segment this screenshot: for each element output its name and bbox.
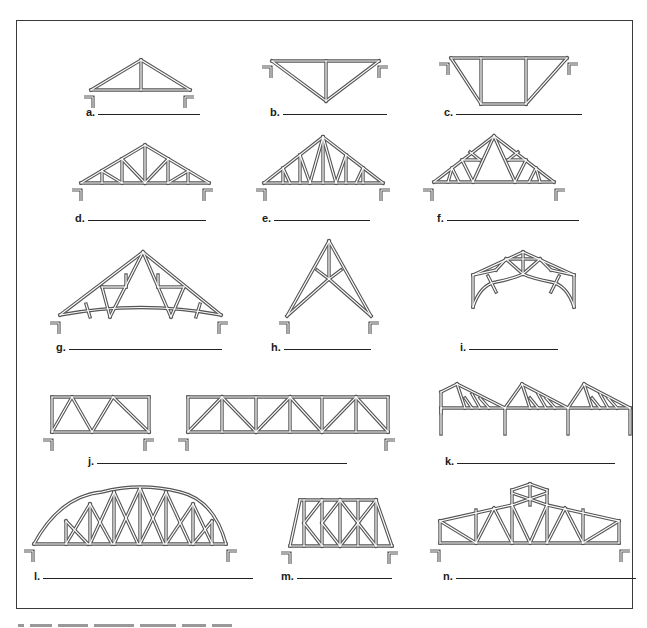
item-letter: m. — [281, 570, 294, 582]
item-letter: k. — [445, 455, 454, 467]
bearing-support-icon — [72, 190, 213, 201]
truss-figure-f — [423, 136, 565, 201]
answer-blank[interactable] — [283, 114, 387, 115]
answer-blank[interactable] — [297, 578, 392, 579]
answer-item-b: b. — [270, 106, 387, 118]
answer-item-c: c. — [444, 106, 582, 118]
bearing-support-icon — [43, 440, 154, 451]
item-letter: j. — [88, 455, 94, 467]
answer-blank[interactable] — [98, 114, 200, 115]
truss-figure-j2 — [178, 397, 395, 451]
answer-blank[interactable] — [274, 220, 370, 221]
bearing-support-icon — [430, 551, 630, 562]
answer-item-j: j. — [88, 455, 347, 467]
answer-item-i: i. — [460, 341, 558, 353]
answer-item-m: m. — [281, 570, 392, 582]
answer-item-l: l. — [34, 570, 253, 582]
answer-blank[interactable] — [97, 463, 347, 464]
truss-figure-a — [84, 60, 194, 108]
answer-blank[interactable] — [88, 220, 206, 221]
answer-blank[interactable] — [457, 463, 615, 464]
answer-blank[interactable] — [69, 349, 222, 350]
truss-figure-i — [473, 252, 574, 307]
answer-item-n: n. — [443, 570, 636, 582]
item-letter: e. — [262, 212, 271, 224]
truss-figure-l — [24, 487, 237, 562]
answer-item-f: f. — [437, 212, 579, 224]
item-letter: b. — [270, 106, 280, 118]
bearing-support-icon — [24, 551, 237, 562]
truss-figure-k — [441, 384, 630, 434]
truss-figure-b — [262, 61, 388, 101]
item-letter: i. — [460, 341, 466, 353]
bearing-support-icon — [279, 323, 379, 334]
bearing-support-icon — [423, 190, 565, 201]
item-letter: h. — [271, 341, 281, 353]
truss-diagrams — [0, 0, 647, 628]
answer-blank[interactable] — [456, 578, 636, 579]
bearing-support-icon — [281, 553, 398, 564]
item-letter: g. — [56, 341, 66, 353]
answer-item-e: e. — [262, 212, 370, 224]
truss-figure-j1 — [43, 397, 154, 451]
truss-figure-n — [430, 484, 630, 562]
item-letter: l. — [34, 570, 40, 582]
truss-figure-m — [281, 500, 398, 564]
truss-figure-h — [279, 241, 379, 334]
answer-item-k: k. — [445, 455, 615, 467]
bearing-support-icon — [178, 440, 395, 451]
answer-item-d: d. — [75, 212, 206, 224]
bearing-support-icon — [50, 323, 228, 334]
answer-blank[interactable] — [469, 349, 558, 350]
item-letter: n. — [443, 570, 453, 582]
item-letter: c. — [444, 106, 453, 118]
answer-blank[interactable] — [456, 114, 582, 115]
truss-figure-c — [439, 58, 578, 104]
truss-figure-g — [50, 252, 228, 334]
answer-item-a: a. — [86, 106, 200, 118]
item-letter: a. — [86, 106, 95, 118]
truss-figure-d — [72, 145, 213, 201]
item-letter: f. — [437, 212, 444, 224]
truss-figure-e — [256, 137, 390, 201]
answer-blank[interactable] — [447, 220, 579, 221]
answer-blank[interactable] — [43, 578, 253, 579]
bearing-support-icon — [256, 190, 390, 201]
answer-item-g: g. — [56, 341, 222, 353]
truncated-footer-text — [18, 620, 318, 628]
answer-item-h: h. — [271, 341, 371, 353]
answer-blank[interactable] — [284, 349, 371, 350]
item-letter: d. — [75, 212, 85, 224]
